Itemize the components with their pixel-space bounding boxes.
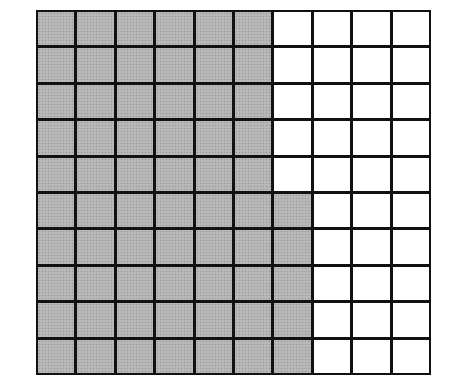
shaded-cell bbox=[117, 12, 153, 45]
unshaded-cell bbox=[353, 85, 389, 118]
shaded-cell bbox=[38, 121, 74, 154]
shaded-cell bbox=[77, 12, 113, 45]
shaded-cell bbox=[274, 303, 310, 336]
unshaded-cell bbox=[393, 194, 429, 227]
shaded-cell bbox=[117, 267, 153, 300]
shaded-cell bbox=[235, 158, 271, 191]
shaded-cell bbox=[156, 340, 192, 373]
shaded-cell bbox=[117, 121, 153, 154]
shaded-cell bbox=[117, 230, 153, 263]
shaded-cell bbox=[274, 194, 310, 227]
unshaded-cell bbox=[353, 267, 389, 300]
shaded-cell bbox=[156, 158, 192, 191]
shaded-cell bbox=[156, 303, 192, 336]
shaded-cell bbox=[196, 230, 232, 263]
unshaded-cell bbox=[353, 48, 389, 81]
shaded-cell bbox=[274, 230, 310, 263]
unshaded-cell bbox=[274, 121, 310, 154]
shaded-cell bbox=[38, 48, 74, 81]
shaded-cell bbox=[196, 340, 232, 373]
shaded-cell bbox=[77, 267, 113, 300]
unshaded-cell bbox=[393, 48, 429, 81]
shaded-cell bbox=[196, 85, 232, 118]
shaded-cell bbox=[156, 267, 192, 300]
shaded-cell bbox=[77, 85, 113, 118]
shaded-cell bbox=[235, 303, 271, 336]
shaded-cell bbox=[77, 340, 113, 373]
unshaded-cell bbox=[274, 48, 310, 81]
shaded-cell bbox=[77, 194, 113, 227]
shaded-cell bbox=[117, 48, 153, 81]
unshaded-cell bbox=[353, 158, 389, 191]
shaded-cell bbox=[38, 158, 74, 191]
shaded-cell bbox=[77, 158, 113, 191]
unshaded-cell bbox=[393, 158, 429, 191]
shaded-cell bbox=[77, 48, 113, 81]
unshaded-cell bbox=[393, 267, 429, 300]
shaded-cell bbox=[38, 303, 74, 336]
unshaded-cell bbox=[314, 230, 350, 263]
unshaded-cell bbox=[274, 158, 310, 191]
shaded-cell bbox=[117, 194, 153, 227]
shaded-cell bbox=[156, 121, 192, 154]
unshaded-cell bbox=[393, 121, 429, 154]
shaded-cell bbox=[117, 158, 153, 191]
shaded-cell bbox=[156, 230, 192, 263]
shaded-cell bbox=[196, 12, 232, 45]
shaded-cell bbox=[156, 12, 192, 45]
unshaded-cell bbox=[393, 340, 429, 373]
unshaded-cell bbox=[314, 340, 350, 373]
shaded-cell bbox=[235, 48, 271, 81]
shaded-cell bbox=[235, 340, 271, 373]
unshaded-cell bbox=[353, 12, 389, 45]
shaded-cell bbox=[77, 230, 113, 263]
unshaded-cell bbox=[314, 194, 350, 227]
unshaded-cell bbox=[353, 303, 389, 336]
shaded-cell bbox=[274, 267, 310, 300]
shaded-cell bbox=[196, 194, 232, 227]
unshaded-cell bbox=[393, 12, 429, 45]
shaded-cell bbox=[196, 158, 232, 191]
shaded-cell bbox=[235, 85, 271, 118]
unshaded-cell bbox=[314, 303, 350, 336]
shaded-cell bbox=[196, 303, 232, 336]
shaded-cell bbox=[196, 121, 232, 154]
hundred-grid bbox=[36, 10, 431, 375]
unshaded-cell bbox=[314, 121, 350, 154]
shaded-cell bbox=[156, 194, 192, 227]
shaded-cell bbox=[235, 12, 271, 45]
shaded-cell bbox=[38, 194, 74, 227]
shaded-cell bbox=[77, 303, 113, 336]
unshaded-cell bbox=[274, 12, 310, 45]
shaded-cell bbox=[235, 267, 271, 300]
shaded-cell bbox=[38, 267, 74, 300]
shaded-cell bbox=[38, 12, 74, 45]
shaded-cell bbox=[196, 267, 232, 300]
unshaded-cell bbox=[314, 267, 350, 300]
shaded-cell bbox=[117, 340, 153, 373]
unshaded-cell bbox=[314, 158, 350, 191]
shaded-cell bbox=[38, 340, 74, 373]
shaded-cell bbox=[117, 303, 153, 336]
unshaded-cell bbox=[353, 340, 389, 373]
shaded-cell bbox=[156, 48, 192, 81]
shaded-cell bbox=[117, 85, 153, 118]
shaded-cell bbox=[235, 230, 271, 263]
unshaded-cell bbox=[353, 121, 389, 154]
shaded-cell bbox=[235, 194, 271, 227]
unshaded-cell bbox=[353, 230, 389, 263]
unshaded-cell bbox=[393, 303, 429, 336]
shaded-cell bbox=[196, 48, 232, 81]
unshaded-cell bbox=[393, 230, 429, 263]
shaded-cell bbox=[77, 121, 113, 154]
unshaded-cell bbox=[353, 194, 389, 227]
shaded-cell bbox=[274, 340, 310, 373]
unshaded-cell bbox=[314, 48, 350, 81]
shaded-cell bbox=[38, 85, 74, 118]
unshaded-cell bbox=[314, 12, 350, 45]
unshaded-cell bbox=[393, 85, 429, 118]
shaded-cell bbox=[38, 230, 74, 263]
unshaded-cell bbox=[314, 85, 350, 118]
unshaded-cell bbox=[274, 85, 310, 118]
shaded-cell bbox=[156, 85, 192, 118]
